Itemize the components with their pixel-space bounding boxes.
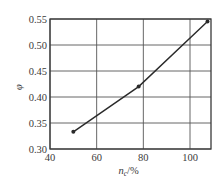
data-point: [137, 85, 141, 89]
x-tick-label: 40: [45, 152, 56, 163]
data-point: [71, 130, 75, 134]
plot-frame: [50, 19, 211, 149]
line-chart: 0.300.350.400.450.500.55 406080100 φ nc/…: [0, 0, 224, 181]
y-axis-ticks: 0.300.350.400.450.500.55: [29, 14, 47, 155]
x-tick-label: 80: [138, 152, 149, 163]
grid-lines: [50, 19, 211, 149]
data-point: [206, 20, 210, 24]
y-tick-label: 0.50: [29, 40, 47, 51]
data-markers: [71, 20, 209, 134]
x-axis-ticks: 406080100: [45, 152, 198, 163]
y-tick-label: 0.35: [29, 118, 47, 129]
y-tick-label: 0.40: [29, 92, 47, 103]
series-line: [73, 22, 207, 132]
y-axis-label: φ: [13, 84, 24, 90]
x-axis-label: nc/%: [119, 165, 140, 178]
y-tick-label: 0.45: [29, 66, 47, 77]
x-axis-label-unit: /%: [127, 165, 139, 176]
y-tick-label: 0.55: [29, 14, 47, 25]
x-tick-label: 60: [91, 152, 102, 163]
x-tick-label: 100: [182, 152, 198, 163]
